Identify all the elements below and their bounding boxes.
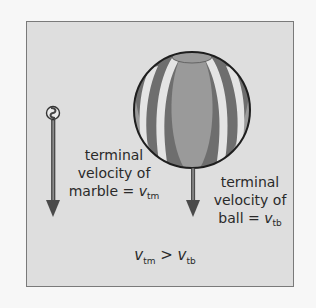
ball-label-line-2: velocity of (204, 191, 296, 209)
marble-velocity-arrow-icon (46, 120, 60, 217)
marble-label-line-2: velocity of (62, 164, 166, 182)
formula-operator: > (155, 246, 177, 264)
marble-velocity-symbol: v (139, 183, 147, 199)
marble-label-text: marble = (69, 183, 139, 199)
marble-icon (47, 107, 60, 120)
velocity-comparison-formula: vtm > vtb (128, 246, 202, 266)
ball-label-text: ball = (218, 210, 264, 226)
marble-label-line-1: terminal (62, 146, 166, 164)
ball-velocity-label: terminal velocity of ball = vtb (204, 173, 296, 232)
formula-left-subscript: tm (143, 256, 155, 266)
marble-label-line-3: marble = vtm (62, 182, 166, 205)
ball-velocity-arrow-icon (186, 168, 200, 217)
formula-right-subscript: tb (186, 256, 195, 266)
ball-label-line-1: terminal (204, 173, 296, 191)
marble-velocity-subscript: tm (147, 191, 159, 201)
formula-left-symbol: v (134, 246, 143, 264)
ball-label-line-3: ball = vtb (204, 209, 296, 232)
marble-velocity-label: terminal velocity of marble = vtm (62, 146, 166, 205)
ball-velocity-subscript: tb (272, 218, 281, 228)
